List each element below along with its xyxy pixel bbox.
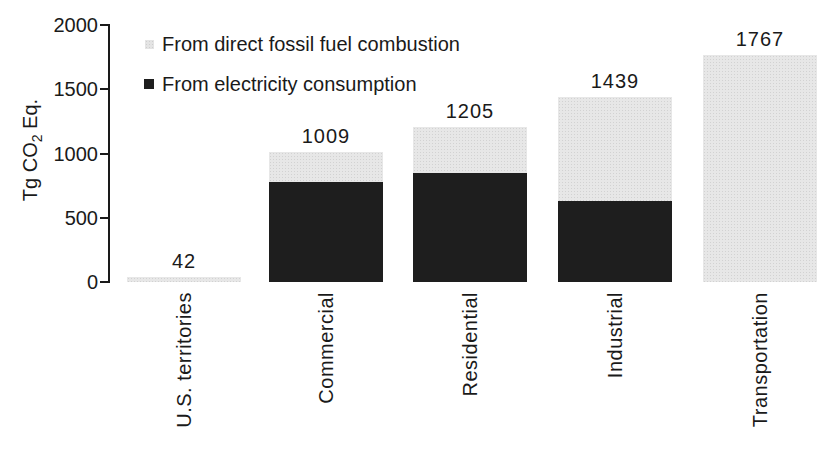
bar-industrial	[558, 97, 672, 282]
y-axis-title-subscript: 2	[29, 134, 45, 142]
x-category-label-industrial: Industrial	[605, 292, 625, 378]
bar-chart-figure: Tg CO2 Eq. 0500100015002000 From direct …	[0, 0, 833, 449]
bar-segment-electricity-residential	[413, 173, 527, 282]
x-category-label-residential: Residential	[460, 292, 480, 396]
bar-value-label-commercial: 1009	[269, 125, 383, 147]
bar-segment-direct-fossil-residential	[413, 127, 527, 173]
bar-segment-direct-fossil-commercial	[269, 152, 383, 182]
y-tick-label: 500	[8, 208, 98, 228]
bar-transportation	[703, 55, 817, 282]
y-tick-label: 1500	[8, 79, 98, 99]
legend-item-direct-fossil: From direct fossil fuel combustion	[145, 34, 460, 54]
y-tick-mark	[100, 217, 109, 219]
bar-residential	[413, 127, 527, 282]
legend-label-electricity: From electricity consumption	[162, 73, 417, 96]
x-category-label-u-s-territories: U.S. territories	[174, 292, 194, 428]
bar-value-label-industrial: 1439	[558, 70, 672, 92]
x-category-label-transportation: Transportation	[750, 292, 770, 427]
y-tick-mark	[100, 153, 109, 155]
y-tick-label: 0	[8, 272, 98, 292]
y-axis-title-suffix: Eq.	[19, 99, 41, 135]
y-tick-mark	[100, 24, 109, 26]
legend-item-electricity: From electricity consumption	[144, 74, 417, 94]
bar-u-s-territories	[127, 277, 241, 282]
bar-segment-electricity-industrial	[558, 201, 672, 282]
bar-segment-direct-fossil-transportation	[703, 55, 817, 282]
y-tick-mark	[100, 88, 109, 90]
bar-segment-electricity-commercial	[269, 182, 383, 282]
y-tick-label: 2000	[8, 15, 98, 35]
bar-segment-direct-fossil-industrial	[558, 97, 672, 201]
bar-commercial	[269, 152, 383, 282]
legend-swatch-electricity-icon	[144, 79, 154, 89]
x-category-label-commercial: Commercial	[316, 292, 336, 404]
bar-value-label-u-s-territories: 42	[127, 250, 241, 272]
bar-value-label-residential: 1205	[413, 100, 527, 122]
y-tick-mark	[100, 281, 109, 283]
legend-label-direct-fossil: From direct fossil fuel combustion	[162, 33, 460, 56]
legend-swatch-direct-fossil-icon	[145, 40, 154, 49]
bar-value-label-transportation: 1767	[703, 28, 817, 50]
bar-segment-direct-fossil-u-s-territories	[127, 277, 241, 282]
y-tick-label: 1000	[8, 144, 98, 164]
